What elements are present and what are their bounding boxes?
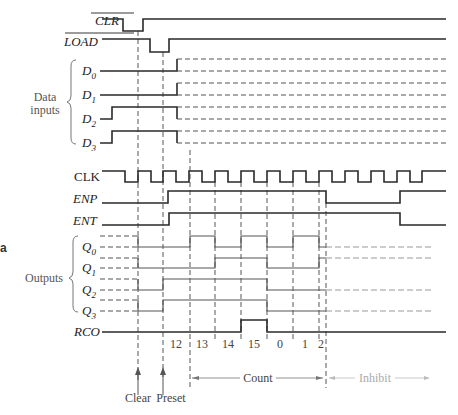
q3-waveform: [138, 300, 326, 311]
count-values: 12 13 14 15 0 1 2: [170, 337, 324, 351]
rco-waveform: [102, 320, 446, 332]
count-arrow-right-icon: [316, 376, 323, 380]
preset-marker: Preset: [156, 367, 186, 405]
d0-row: D0: [81, 59, 446, 81]
inhibit-span: Inhibit: [329, 371, 430, 385]
ent-label: ENT: [72, 213, 98, 228]
d1-label: D1: [81, 87, 96, 105]
count-value: 0: [277, 337, 283, 351]
q3-label: Q3: [82, 303, 96, 321]
clr-label: CLR: [95, 13, 119, 28]
clk-waveform: [102, 171, 446, 182]
count-value: 1: [302, 337, 308, 351]
q2-row: Q2: [82, 279, 432, 300]
count-value: 2: [318, 337, 324, 351]
count-value: 15: [248, 337, 260, 351]
preset-arrow-icon: [160, 367, 166, 375]
d3-row: D3: [81, 131, 446, 153]
q1-waveform: [138, 258, 326, 268]
count-value: 14: [222, 337, 234, 351]
inhibit-label: Inhibit: [359, 371, 392, 385]
q2-label: Q2: [82, 282, 96, 300]
clr-row: CLR: [91, 13, 446, 31]
enp-waveform: [102, 191, 446, 203]
data-inputs-brace: [67, 60, 76, 144]
d2-row: D2: [81, 107, 446, 129]
time-guides: [138, 31, 326, 388]
ent-waveform: [102, 213, 446, 225]
q0-waveform: [138, 236, 326, 247]
clk-label: CLK: [74, 169, 101, 184]
count-span: Count: [192, 371, 323, 385]
load-label: LOAD: [63, 34, 99, 49]
preset-label: Preset: [156, 391, 186, 405]
count-arrow-left-icon: [192, 376, 199, 380]
outputs-label: Outputs: [25, 271, 63, 285]
data-inputs-label-line2: inputs: [30, 103, 60, 117]
q2-waveform: [138, 279, 326, 290]
timing-diagram-svg: CLR LOAD Data inputs D0 D1 D2 D3: [0, 0, 458, 415]
inhibit-arrow-left-icon: [329, 376, 335, 380]
inhibit-arrow-right-icon: [424, 376, 430, 380]
load-waveform: [102, 39, 446, 52]
clear-label: Clear: [125, 391, 151, 405]
clear-arrow-icon: [135, 367, 141, 375]
clear-marker: Clear: [125, 367, 151, 405]
count-label: Count: [243, 371, 273, 385]
q1-row: Q1: [82, 258, 432, 278]
outputs-brace: [69, 236, 78, 312]
clk-row: CLK: [74, 169, 446, 184]
count-value: 12: [170, 337, 182, 351]
d2-label: D2: [81, 111, 96, 129]
d0-label: D0: [81, 63, 96, 81]
d1-row: D1: [81, 83, 446, 105]
q3-row: Q3: [82, 300, 432, 321]
q0-label: Q0: [82, 239, 96, 257]
q0-row: Q0: [82, 236, 432, 257]
margin-mark: a: [0, 241, 7, 255]
load-row: LOAD: [63, 33, 446, 52]
timing-diagram: CLR LOAD Data inputs D0 D1 D2 D3: [0, 0, 458, 415]
enp-label: ENP: [72, 191, 98, 206]
count-value: 13: [196, 337, 208, 351]
ent-row: ENT: [72, 213, 446, 228]
q1-label: Q1: [82, 260, 96, 278]
d3-label: D3: [81, 135, 96, 153]
enp-row: ENP: [72, 191, 446, 206]
outputs-group: Outputs: [25, 236, 78, 312]
data-inputs-group: Data inputs: [30, 60, 76, 144]
clr-waveform: [102, 19, 446, 31]
data-inputs-label-line1: Data: [34, 90, 57, 104]
rco-label: RCO: [73, 324, 101, 339]
